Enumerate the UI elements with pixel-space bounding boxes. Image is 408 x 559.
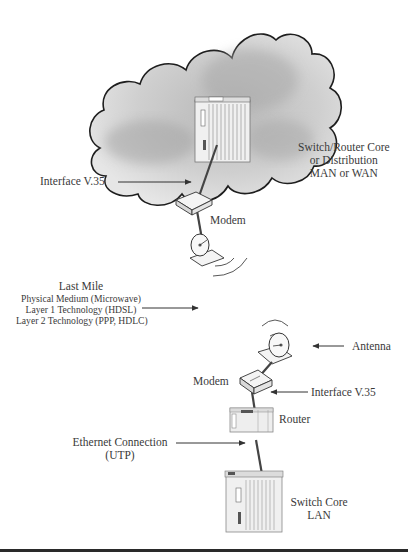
router-label: Router bbox=[279, 413, 310, 426]
wan-switch-icon bbox=[195, 97, 250, 162]
cloud-label: Switch/Router Core or Distribution MAN o… bbox=[298, 141, 390, 181]
lower-antenna-icon bbox=[258, 333, 292, 364]
cloud-label-line-1: Switch/Router Core bbox=[298, 141, 390, 154]
cloud-label-line-3: MAN or WAN bbox=[298, 167, 390, 180]
switch-core-label: Switch Core LAN bbox=[284, 496, 354, 522]
lower-modem-label: Modem bbox=[193, 375, 229, 388]
upper-antenna-icon bbox=[190, 234, 224, 266]
antenna-label: Antenna bbox=[352, 340, 391, 353]
lan-switch-icon bbox=[225, 471, 283, 532]
upper-modem-label: Modem bbox=[210, 214, 246, 227]
last-mile-line-3: Layer 2 Technology (PPP, HDLC) bbox=[16, 315, 146, 326]
switch-core-label-line-1: Switch Core bbox=[284, 496, 354, 509]
last-mile-label: Last Mile Physical Medium (Microwave) La… bbox=[16, 280, 146, 326]
ethernet-label: Ethernet Connection (UTP) bbox=[68, 436, 172, 462]
cloud-label-line-2: or Distribution bbox=[298, 154, 390, 167]
bottom-divider bbox=[0, 549, 408, 552]
ethernet-label-line-2: (UTP) bbox=[68, 449, 172, 462]
lower-interface-label: Interface V.35 bbox=[311, 386, 376, 399]
ethernet-label-line-1: Ethernet Connection bbox=[68, 436, 172, 449]
upper-signal-waves-icon bbox=[213, 258, 247, 276]
upper-interface-label: Interface V.35 bbox=[40, 175, 105, 188]
lower-modem-icon bbox=[240, 370, 272, 394]
last-mile-title: Last Mile bbox=[16, 280, 146, 293]
switch-core-label-line-2: LAN bbox=[284, 509, 354, 522]
last-mile-line-2: Layer 1 Technology (HDSL) bbox=[16, 304, 146, 315]
router-icon bbox=[230, 408, 273, 432]
last-mile-line-1: Physical Medium (Microwave) bbox=[16, 293, 146, 304]
